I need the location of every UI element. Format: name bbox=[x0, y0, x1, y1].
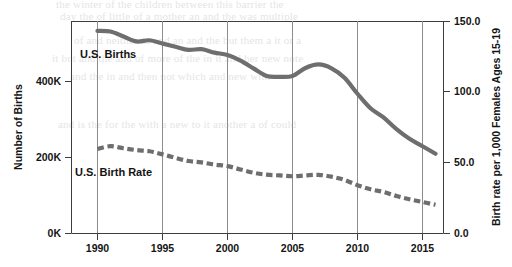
series-line-us-births bbox=[98, 31, 436, 154]
right-axis-ticks bbox=[444, 22, 451, 234]
right-tick-label-100: 100.0 bbox=[454, 85, 480, 97]
series-label-us-births: U.S. Births bbox=[80, 48, 136, 60]
x-tick-label-2015: 2015 bbox=[411, 242, 435, 254]
series-label-us-birth-rate: U.S. Birth Rate bbox=[75, 166, 152, 178]
x-tick-label-2000: 2000 bbox=[216, 242, 240, 254]
x-tick-label-1990: 1990 bbox=[86, 242, 110, 254]
right-tick-label-50: 50.0 bbox=[454, 156, 475, 168]
left-tick-label-200k: 200K bbox=[36, 151, 62, 163]
x-tick-label-2010: 2010 bbox=[346, 242, 370, 254]
left-axis-title: Number of Births bbox=[12, 84, 24, 170]
right-tick-label-0: 0.0 bbox=[454, 227, 469, 239]
right-tick-label-150: 150.0 bbox=[454, 15, 480, 27]
birth-statistics-figure: the winter of the children between this … bbox=[0, 0, 512, 267]
left-axis-ticks bbox=[65, 82, 72, 234]
right-axis-title: Birth rate per 1,000 Females Ages 15-19 bbox=[490, 28, 502, 226]
left-tick-label-400k: 400K bbox=[36, 75, 62, 87]
gridlines bbox=[98, 21, 423, 233]
x-axis-ticks bbox=[98, 234, 423, 241]
x-tick-label-1995: 1995 bbox=[151, 242, 175, 254]
left-tick-label-0k: 0K bbox=[48, 227, 62, 239]
chart-canvas: 0K 200K 400K 0.0 50.0 100.0 150.0 1990 1… bbox=[0, 0, 512, 267]
x-tick-label-2005: 2005 bbox=[281, 242, 305, 254]
